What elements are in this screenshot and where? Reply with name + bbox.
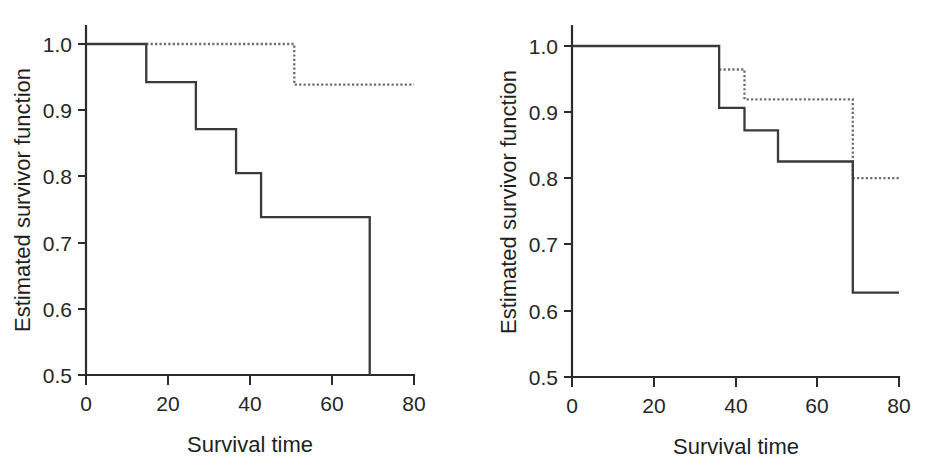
right-xtick-label-2: 40: [724, 394, 747, 417]
left-xtick-label-4: 80: [402, 392, 425, 415]
right-solid-curve: [572, 46, 899, 293]
left-x-axis-title: Survival time: [187, 432, 313, 457]
left-ytick-label-4: 0.9: [43, 99, 72, 122]
right-panel: 0.5 0.6 0.7 0.8 0.9 1.0 0 20 40 60 80 Su…: [467, 0, 935, 471]
right-xtick-label-1: 20: [642, 394, 665, 417]
left-xtick-label-2: 40: [238, 392, 261, 415]
right-ytick-label-5: 1.0: [529, 35, 558, 58]
right-xtick-label-4: 80: [887, 394, 910, 417]
left-xtick-label-0: 0: [80, 392, 92, 415]
right-x-ticks: [572, 377, 899, 387]
left-ytick-label-3: 0.8: [43, 165, 72, 188]
right-x-axis-title: Survival time: [673, 434, 799, 459]
left-y-ticks: [78, 44, 86, 375]
left-ytick-label-1: 0.6: [43, 298, 72, 321]
left-ytick-label-2: 0.7: [43, 232, 72, 255]
left-y-axis-title: Estimated survivor function: [10, 68, 35, 332]
right-y-axis-title: Estimated survivor function: [496, 70, 521, 334]
left-dotted-curve: [146, 44, 414, 85]
right-panel-plot: 0.5 0.6 0.7 0.8 0.9 1.0 0 20 40 60 80 Su…: [467, 0, 935, 471]
left-solid-curve: [86, 44, 370, 375]
right-xtick-label-3: 60: [805, 394, 828, 417]
left-ytick-label-5: 1.0: [43, 33, 72, 56]
left-ytick-label-0: 0.5: [43, 364, 72, 387]
left-panel: 0.5 0.6 0.7 0.8 0.9 1.0 0 20 40 60 80 Su…: [0, 0, 467, 471]
left-xtick-label-1: 20: [156, 392, 179, 415]
right-ytick-label-2: 0.7: [529, 233, 558, 256]
left-x-ticks: [86, 375, 414, 385]
left-xtick-label-3: 60: [320, 392, 343, 415]
right-xtick-label-0: 0: [566, 394, 578, 417]
right-y-ticks: [564, 46, 572, 377]
survival-curves-figure: 0.5 0.6 0.7 0.8 0.9 1.0 0 20 40 60 80 Su…: [0, 0, 935, 471]
right-ytick-label-4: 0.9: [529, 101, 558, 124]
left-panel-plot: 0.5 0.6 0.7 0.8 0.9 1.0 0 20 40 60 80 Su…: [0, 0, 467, 471]
right-ytick-label-0: 0.5: [529, 366, 558, 389]
right-ytick-label-3: 0.8: [529, 167, 558, 190]
right-ytick-label-1: 0.6: [529, 300, 558, 323]
